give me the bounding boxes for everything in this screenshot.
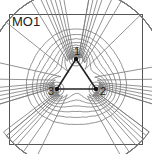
atom-label-3: 3	[48, 85, 54, 97]
contour-line	[0, 0, 152, 154]
bond-line	[76, 59, 96, 89]
contour-line	[0, 15, 152, 154]
atom-label-2: 2	[100, 85, 106, 97]
orbital-contours	[0, 0, 152, 154]
bond-line	[57, 59, 76, 89]
atom-3	[55, 87, 59, 91]
atom-label-1: 1	[74, 45, 80, 57]
atom-2	[94, 87, 98, 91]
atom-1	[74, 57, 78, 61]
contour-plot: 123	[0, 0, 152, 154]
